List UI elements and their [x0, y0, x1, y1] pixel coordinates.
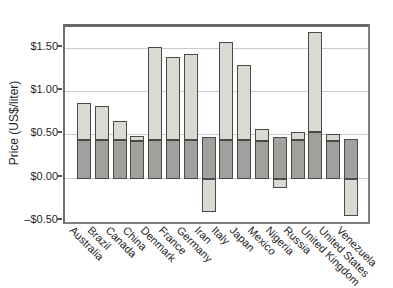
- y-tick-mark: [57, 131, 62, 133]
- y-tick-mark: [57, 45, 62, 47]
- bar-tax-germany: [184, 54, 198, 140]
- bar-pretax-france: [166, 140, 180, 179]
- bar-tax-australia: [77, 103, 91, 139]
- bar-pretax-iran: [202, 137, 216, 179]
- gasoline-price-figure: Price (US$/liter) $1.50$1.00$0.50$0.00–$…: [0, 0, 393, 288]
- bar-pretax-italy: [219, 140, 233, 179]
- bar-tax-france: [166, 57, 180, 139]
- bar-tax-russia: [291, 132, 305, 140]
- y-tick-label-0: $0.00: [0, 169, 58, 183]
- bar-pretax-russia: [291, 140, 305, 179]
- gridline-1: [65, 91, 368, 92]
- y-tick-label--0.5: –$0.50: [0, 212, 58, 226]
- gridline-0.5: [65, 134, 368, 135]
- gridline-1.5: [65, 48, 368, 49]
- y-tick-label-0.5: $0.50: [0, 125, 58, 139]
- bar-pretax-nigeria: [273, 137, 287, 179]
- bar-pretax-china: [130, 141, 144, 179]
- bar-tax-mexico: [255, 129, 269, 140]
- y-tick-mark: [57, 88, 62, 90]
- bar-pretax-brazil: [95, 140, 109, 179]
- y-tick-mark: [57, 175, 62, 177]
- bar-tax-united-states: [326, 134, 340, 142]
- x-tick-label-italy: Italy: [210, 224, 233, 247]
- bar-pretax-united-states: [326, 141, 340, 178]
- bar-pretax-australia: [77, 140, 91, 179]
- bar-subsidy-venezuela: [344, 179, 358, 216]
- bar-tax-japan: [237, 65, 251, 140]
- bar-subsidy-iran: [202, 179, 216, 213]
- bar-subsidy-nigeria: [273, 179, 287, 189]
- plot-area: [63, 24, 370, 224]
- y-tick-mark: [57, 218, 62, 220]
- bar-tax-denmark: [148, 47, 162, 140]
- bar-pretax-japan: [237, 140, 251, 179]
- bar-tax-italy: [219, 42, 233, 140]
- bar-pretax-denmark: [148, 140, 162, 179]
- y-tick-label-1: $1.00: [0, 82, 58, 96]
- bar-tax-united-kingdom: [308, 32, 322, 132]
- bar-pretax-united-kingdom: [308, 132, 322, 179]
- bar-pretax-canada: [113, 140, 127, 179]
- bar-pretax-mexico: [255, 141, 269, 179]
- bar-tax-brazil: [95, 106, 109, 140]
- bar-pretax-venezuela: [344, 139, 358, 179]
- bar-tax-canada: [113, 121, 127, 140]
- gridline-0: [65, 178, 368, 179]
- bar-pretax-germany: [184, 140, 198, 179]
- y-tick-label-1.5: $1.50: [0, 39, 58, 53]
